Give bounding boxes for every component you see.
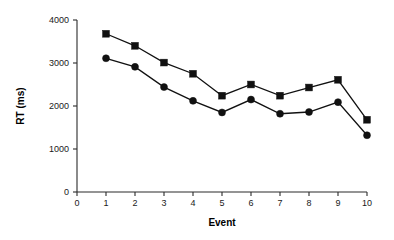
data-point-square <box>103 30 110 37</box>
data-point-circle <box>306 109 313 116</box>
data-point-square <box>248 81 255 88</box>
data-point-square <box>132 42 139 49</box>
data-point-square <box>364 116 371 123</box>
line-chart: 01000200030004000012345678910EventRT (ms… <box>0 0 394 240</box>
data-point-square <box>277 92 284 99</box>
data-point-circle <box>364 132 371 139</box>
x-tick-label: 5 <box>219 198 224 208</box>
y-tick-label: 2000 <box>49 101 69 111</box>
data-point-circle <box>132 63 139 70</box>
x-tick-label: 7 <box>277 198 282 208</box>
y-axis-title: RT (ms) <box>15 87 26 124</box>
x-tick-label: 4 <box>190 198 195 208</box>
data-point-circle <box>190 97 197 104</box>
y-tick-label: 4000 <box>49 15 69 25</box>
x-tick-label: 1 <box>103 198 108 208</box>
chart-container: 01000200030004000012345678910EventRT (ms… <box>0 0 394 240</box>
x-tick-label: 10 <box>362 198 372 208</box>
series-line-upper-series <box>106 34 367 120</box>
data-point-circle <box>335 99 342 106</box>
x-tick-label: 2 <box>132 198 137 208</box>
data-point-square <box>161 59 168 66</box>
x-tick-label: 0 <box>74 198 79 208</box>
data-point-circle <box>277 110 284 117</box>
x-tick-label: 3 <box>161 198 166 208</box>
data-point-circle <box>161 84 168 91</box>
data-point-square <box>306 84 313 91</box>
y-tick-label: 0 <box>64 187 69 197</box>
series-line-lower-series <box>106 58 367 135</box>
y-tick-label: 3000 <box>49 58 69 68</box>
x-axis-title: Event <box>208 217 236 228</box>
y-tick-label: 1000 <box>49 144 69 154</box>
x-tick-label: 9 <box>335 198 340 208</box>
data-point-square <box>219 92 226 99</box>
data-point-circle <box>103 55 110 62</box>
x-tick-label: 8 <box>306 198 311 208</box>
data-point-square <box>335 76 342 83</box>
data-point-circle <box>219 109 226 116</box>
x-tick-label: 6 <box>248 198 253 208</box>
data-point-circle <box>248 96 255 103</box>
data-point-square <box>190 70 197 77</box>
